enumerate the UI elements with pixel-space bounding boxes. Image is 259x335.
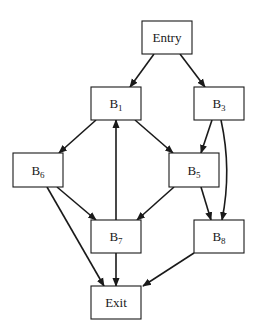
node-label-subscript: 8 bbox=[221, 236, 226, 246]
edge-b1-to-b6 bbox=[59, 120, 96, 153]
node-label-base: B bbox=[109, 96, 118, 111]
node-label-base: B bbox=[187, 163, 196, 178]
nodes-group: EntryB1B3B6B5B7B8Exit bbox=[13, 21, 244, 319]
node-label-subscript: 1 bbox=[118, 103, 123, 113]
edge-b5-to-b7 bbox=[137, 187, 174, 220]
node-label-base: Exit bbox=[105, 295, 127, 310]
node-b8: B8 bbox=[194, 220, 244, 253]
node-label: Exit bbox=[105, 295, 127, 310]
node-b3: B3 bbox=[194, 87, 244, 120]
edge-b3-to-b5 bbox=[201, 120, 212, 153]
node-label-base: B bbox=[31, 163, 40, 178]
node-label-base: B bbox=[109, 229, 118, 244]
edge-entry-to-b3 bbox=[180, 54, 205, 87]
edge-b3-to-b8 bbox=[221, 120, 227, 220]
edge-b8-to-exit bbox=[143, 253, 194, 286]
node-entry: Entry bbox=[142, 21, 192, 54]
control-flow-graph: EntryB1B3B6B5B7B8Exit bbox=[0, 0, 259, 335]
node-label: Entry bbox=[153, 30, 182, 45]
node-label-base: B bbox=[212, 229, 221, 244]
node-label-base: B bbox=[212, 96, 221, 111]
node-label-subscript: 3 bbox=[221, 103, 226, 113]
node-b1: B1 bbox=[91, 87, 141, 120]
node-exit: Exit bbox=[91, 286, 141, 319]
node-b5: B5 bbox=[169, 153, 219, 187]
node-b6: B6 bbox=[13, 153, 63, 187]
node-label-subscript: 5 bbox=[196, 170, 201, 180]
node-b7: B7 bbox=[91, 220, 141, 253]
edge-b1-to-b5 bbox=[135, 120, 173, 153]
node-label-base: Entry bbox=[153, 30, 182, 45]
node-label-subscript: 7 bbox=[118, 236, 123, 246]
node-label-subscript: 6 bbox=[40, 170, 45, 180]
edge-b5-to-b8 bbox=[201, 187, 211, 220]
edge-entry-to-b1 bbox=[130, 54, 154, 87]
